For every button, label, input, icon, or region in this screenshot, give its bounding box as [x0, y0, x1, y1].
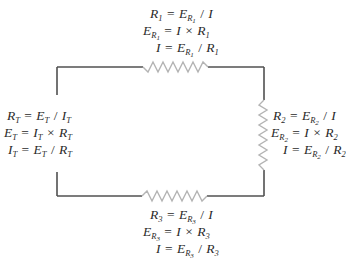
symbol: R — [150, 6, 158, 21]
r1-voltage-equation: ER1 = I × R1 — [138, 22, 248, 39]
subscript: 2 — [342, 149, 346, 159]
resistor-r1 — [143, 62, 208, 72]
divide: / — [197, 40, 203, 55]
subscript: 3 — [215, 248, 219, 258]
symbol: R — [59, 125, 67, 140]
r3-voltage-equation: ER3 = I × R3 — [138, 223, 248, 240]
r2-voltage-equation: ER2 = I × R2 — [271, 124, 346, 141]
equals: = — [164, 241, 174, 256]
symbol: I — [176, 23, 181, 38]
symbol: R — [150, 207, 158, 222]
r1-equations: R1 = ER1 / I ER1 = I × R1 I = ER1 / R1 — [138, 5, 248, 56]
divide: / — [199, 207, 205, 222]
symbol: E — [143, 23, 151, 38]
equals: = — [289, 108, 299, 123]
symbol: I — [283, 142, 288, 157]
r3-current-equation: I = ER3 / R3 — [138, 240, 248, 257]
subscript: 3 — [190, 252, 194, 260]
multiply: × — [312, 125, 322, 140]
equals: = — [291, 125, 301, 140]
divide: / — [324, 142, 330, 157]
symbol: I — [176, 224, 181, 239]
r1-resistance-equation: R1 = ER1 / I — [138, 5, 248, 22]
total-resistance-equation: RT = ET / IT — [4, 107, 104, 124]
equals: = — [166, 6, 176, 21]
divide: / — [53, 108, 59, 123]
subscript: T — [42, 149, 47, 159]
symbol: R — [273, 108, 281, 123]
divide: / — [197, 241, 203, 256]
symbol: I — [331, 108, 336, 123]
symbol: R — [206, 40, 214, 55]
symbol: I — [208, 6, 213, 21]
symbol: R — [206, 241, 214, 256]
equals: = — [23, 108, 33, 123]
symbol: I — [156, 40, 161, 55]
symbol: E — [179, 6, 187, 21]
divide: / — [199, 6, 205, 21]
symbol: I — [208, 207, 213, 222]
equals: = — [163, 224, 173, 239]
multiply: × — [184, 23, 194, 38]
symbol: E — [177, 40, 185, 55]
symbol: E — [179, 207, 187, 222]
total-voltage-equation: ET = IT × RT — [4, 124, 104, 141]
resistor-r2 — [259, 100, 267, 170]
subscript: T — [13, 149, 18, 159]
symbol: I — [304, 125, 309, 140]
equals: = — [20, 125, 30, 140]
r2-equations: R2 = ER2 / I ER2 = I × R2 I = ER2 / R2 — [271, 107, 346, 158]
r1-current-equation: I = ER1 / R1 — [138, 39, 248, 56]
symbol: E — [304, 142, 312, 157]
symbol: E — [177, 241, 185, 256]
subscript: 1 — [190, 51, 194, 59]
total-current-equation: IT = ET / RT — [4, 141, 104, 158]
symbol: E — [36, 108, 44, 123]
symbol: E — [143, 224, 151, 239]
divide: / — [322, 108, 328, 123]
subscript: T — [67, 149, 72, 159]
equals: = — [163, 23, 173, 38]
r3-equations: R3 = ER3 / I ER3 = I × R3 I = ER3 / R3 — [138, 206, 248, 257]
equals: = — [164, 40, 174, 55]
subscript: 2 — [317, 153, 321, 161]
symbol: I — [156, 241, 161, 256]
divide: / — [50, 142, 56, 157]
equals: = — [291, 142, 301, 157]
symbol: E — [302, 108, 310, 123]
resistor-r3 — [142, 191, 207, 201]
r2-resistance-equation: R2 = ER2 / I — [271, 107, 346, 124]
total-equations: RT = ET / IT ET = IT × RT IT = ET / RT — [4, 107, 104, 158]
symbol: E — [271, 125, 279, 140]
symbol: R — [333, 142, 341, 157]
symbol: E — [4, 125, 12, 140]
symbol: R — [7, 108, 15, 123]
subscript: 1 — [215, 47, 219, 57]
r3-resistance-equation: R3 = ER3 / I — [138, 206, 248, 223]
equals: = — [21, 142, 31, 157]
multiply: × — [184, 224, 194, 239]
equals: = — [166, 207, 176, 222]
multiply: × — [46, 125, 56, 140]
symbol: E — [34, 142, 42, 157]
r2-current-equation: I = ER2 / R2 — [271, 141, 346, 158]
